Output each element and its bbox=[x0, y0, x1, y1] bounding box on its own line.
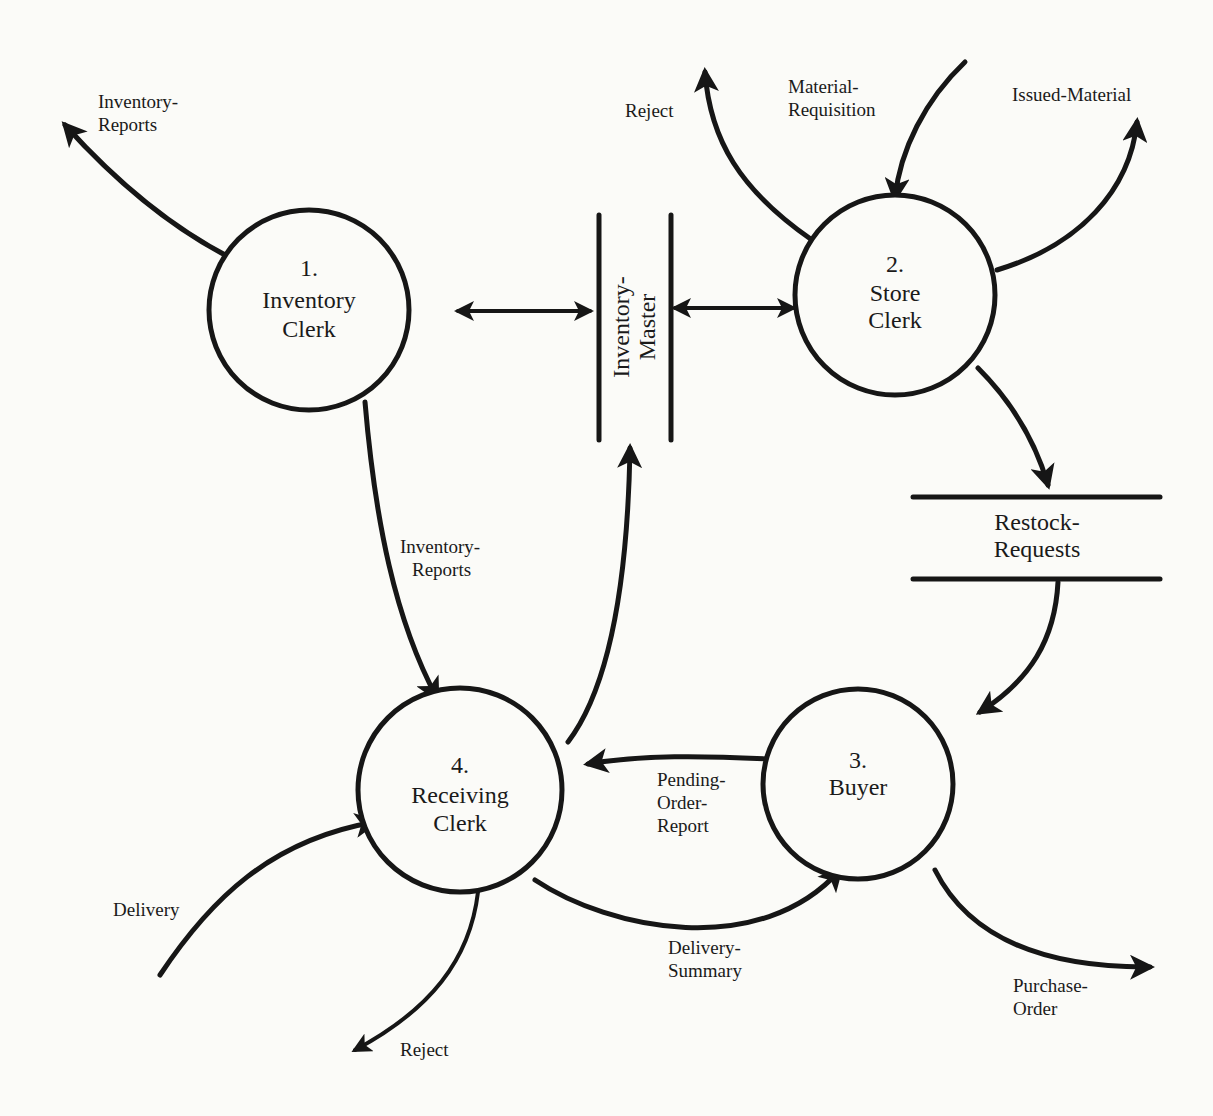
arrow-icon bbox=[535, 870, 840, 928]
store-label: Restock- bbox=[994, 509, 1079, 535]
flow-label: Reports bbox=[412, 559, 471, 580]
process-number: 4. bbox=[451, 752, 469, 778]
arrow-icon bbox=[997, 122, 1137, 270]
arrow-icon bbox=[980, 582, 1058, 712]
flow-issued-material: Issued-Material bbox=[997, 84, 1137, 270]
flow-receiving-reject: Reject bbox=[355, 892, 478, 1060]
flow-label: Reject bbox=[400, 1039, 449, 1060]
process-name: Inventory bbox=[262, 287, 355, 313]
process-number: 2. bbox=[886, 251, 904, 277]
arrow-icon bbox=[160, 822, 375, 975]
flow-label: Report bbox=[657, 815, 709, 836]
flow-label: Order- bbox=[657, 792, 707, 813]
flow-store-clerk-restock bbox=[978, 368, 1048, 485]
process-name: Clerk bbox=[433, 810, 486, 836]
flow-material-requisition: Material- Requisition bbox=[788, 62, 965, 198]
process-number: 3. bbox=[849, 747, 867, 773]
flow-label: Inventory- bbox=[98, 91, 178, 112]
flow-label: Pending- bbox=[657, 769, 726, 790]
arrow-icon bbox=[355, 892, 478, 1050]
flow-delivery-summary: Delivery- Summary bbox=[535, 870, 840, 981]
flow-inventory-reports-internal: Inventory- Reports bbox=[365, 402, 480, 698]
process-name: Receiving bbox=[411, 782, 508, 808]
process-buyer: 3. Buyer bbox=[763, 689, 953, 879]
arrow-icon bbox=[568, 448, 630, 742]
arrow-icon bbox=[65, 125, 245, 265]
process-name: Store bbox=[870, 280, 921, 306]
arrow-icon bbox=[935, 870, 1150, 967]
flow-label: Delivery- bbox=[668, 937, 741, 958]
process-name: Clerk bbox=[868, 307, 921, 333]
store-label: Requests bbox=[994, 536, 1081, 562]
flow-label: Requisition bbox=[788, 99, 876, 120]
flow-delivery: Delivery bbox=[113, 822, 375, 975]
flow-label: Summary bbox=[668, 960, 742, 981]
flow-receiving-inventory-master bbox=[568, 448, 630, 742]
flow-label: Order bbox=[1013, 998, 1058, 1019]
data-flow-diagram: Inventory- Reports Inventory- Master Rej… bbox=[0, 0, 1213, 1116]
process-store-clerk: 2. Store Clerk bbox=[795, 195, 995, 395]
arrow-icon bbox=[895, 62, 965, 198]
store-label: Master bbox=[634, 294, 660, 361]
data-store-inventory-master: Inventory- Master bbox=[599, 215, 671, 440]
arrow-icon bbox=[978, 368, 1048, 485]
process-inventory-clerk: 1. Inventory Clerk bbox=[209, 210, 409, 410]
flow-label: Material- bbox=[788, 76, 859, 97]
arrow-icon bbox=[705, 72, 812, 240]
flow-label: Reject bbox=[625, 100, 674, 121]
process-name: Clerk bbox=[282, 316, 335, 342]
data-store-restock-requests: Restock- Requests bbox=[913, 497, 1160, 579]
flow-pending-order-report: Pending- Order- Report bbox=[588, 757, 787, 836]
flow-purchase-order: Purchase- Order bbox=[935, 870, 1150, 1019]
arrow-icon bbox=[588, 757, 787, 764]
process-name: Buyer bbox=[829, 774, 888, 800]
flow-label: Issued-Material bbox=[1012, 84, 1131, 105]
flow-label: Purchase- bbox=[1013, 975, 1088, 996]
flow-inventory-reports-external: Inventory- Reports bbox=[65, 91, 245, 265]
flow-label: Reports bbox=[98, 114, 157, 135]
flow-label: Delivery bbox=[113, 899, 180, 920]
process-number: 1. bbox=[300, 255, 318, 281]
flow-label: Inventory- bbox=[400, 536, 480, 557]
store-label: Inventory- bbox=[608, 276, 634, 377]
flow-restock-buyer bbox=[980, 582, 1058, 712]
flow-store-clerk-reject: Reject bbox=[625, 72, 812, 240]
process-receiving-clerk: 4. Receiving Clerk bbox=[358, 688, 562, 892]
